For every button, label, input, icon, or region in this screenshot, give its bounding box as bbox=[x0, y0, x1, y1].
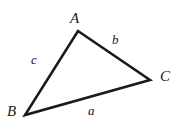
vertex-label-b: B bbox=[7, 104, 16, 119]
triangle-figure: A B C a b c bbox=[0, 0, 183, 130]
vertex-label-a: A bbox=[70, 11, 79, 26]
vertex-label-c: C bbox=[160, 69, 170, 84]
side-label-b: b bbox=[112, 33, 119, 46]
side-label-c: c bbox=[31, 53, 37, 66]
side-label-a: a bbox=[88, 104, 95, 117]
